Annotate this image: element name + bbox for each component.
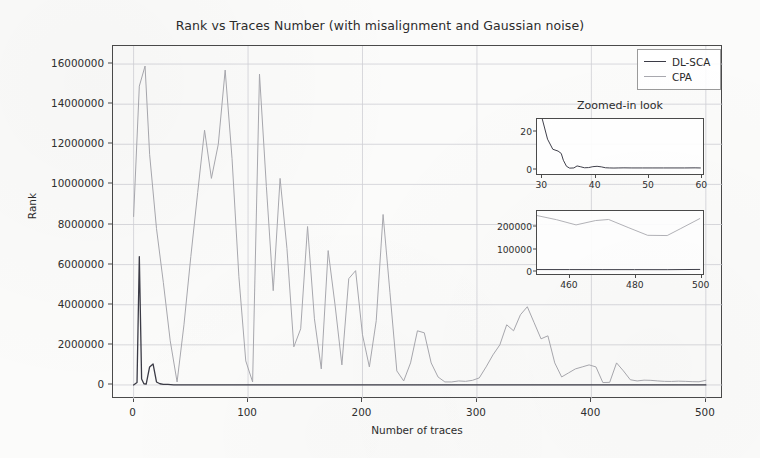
y-tick-label: 4000000: [58, 298, 104, 310]
inset-x-tick-label: 480: [626, 279, 644, 290]
y-tick-label: 8000000: [58, 218, 104, 230]
inset-x-tick-mark: [701, 175, 702, 178]
inset-y-tick-mark: [533, 226, 536, 227]
inset-y-tick-mark: [533, 169, 536, 170]
y-tick-label: 2000000: [58, 338, 104, 350]
inset-y-tick-label: 0: [474, 265, 532, 276]
x-tick-label: 100: [237, 406, 257, 418]
inset-x-tick-mark: [569, 275, 570, 278]
inset-y-tick-label: 100000: [474, 243, 532, 254]
inset-x-tick-mark: [701, 275, 702, 278]
legend-label-dl-sca: DL-SCA: [672, 56, 710, 68]
inset-x-tick-mark: [595, 175, 596, 178]
inset-plot-early-traces: [536, 118, 704, 175]
y-tick-label: 0: [97, 378, 104, 390]
inset-y-tick-label: 200000: [474, 221, 532, 232]
x-tick-label: 300: [466, 406, 486, 418]
inset-x-tick-label: 460: [560, 279, 578, 290]
inset-x-tick-mark: [648, 175, 649, 178]
chart-figure: Rank vs Traces Number (with misalignment…: [0, 0, 760, 458]
inset1-svg: [537, 119, 703, 174]
inset-x-tick-mark: [541, 175, 542, 178]
legend-entry-dl-sca: DL-SCA: [644, 54, 714, 69]
inset-y-tick-mark: [533, 248, 536, 249]
inset-y-tick-mark: [533, 131, 536, 132]
inset-plot-late-traces: [536, 210, 704, 275]
legend-swatch-cpa: [644, 76, 666, 77]
x-tick-label: 0: [129, 406, 136, 418]
inset-x-tick-mark: [635, 275, 636, 278]
y-tick-label: 10000000: [51, 177, 104, 189]
inset-y-tick-label: 20: [474, 126, 532, 137]
chart-legend: DL-SCA CPA: [637, 49, 721, 90]
inset2-svg: [537, 211, 703, 274]
inset-x-tick-label: 60: [695, 179, 707, 190]
y-axis-ticks: 0200000040000006000000800000010000000120…: [0, 45, 112, 398]
inset-x-tick-label: 50: [642, 179, 654, 190]
inset-title-zoomed-in-look: Zoomed-in look: [536, 99, 704, 112]
inset-x-tick-label: 40: [589, 179, 601, 190]
inset-y-tick-label: 0: [474, 164, 532, 175]
chart-title: Rank vs Traces Number (with misalignment…: [0, 18, 760, 33]
inset-y-tick-mark: [533, 270, 536, 271]
y-tick-label: 16000000: [51, 57, 104, 69]
inset-x-tick-label: 30: [535, 179, 547, 190]
x-axis-label: Number of traces: [112, 424, 722, 436]
x-tick-label: 500: [695, 406, 715, 418]
legend-label-cpa: CPA: [672, 71, 692, 83]
y-tick-label: 6000000: [58, 258, 104, 270]
y-tick-label: 14000000: [51, 97, 104, 109]
y-axis-label: Rank: [26, 166, 38, 246]
x-tick-label: 200: [352, 406, 372, 418]
legend-entry-cpa: CPA: [644, 69, 714, 84]
x-tick-label: 400: [580, 406, 600, 418]
y-tick-label: 12000000: [51, 137, 104, 149]
inset-x-tick-label: 500: [692, 279, 710, 290]
legend-swatch-dl-sca: [644, 61, 666, 62]
